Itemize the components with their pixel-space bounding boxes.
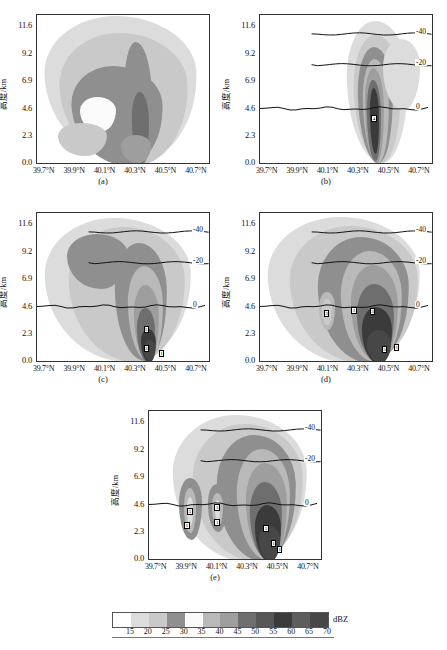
y-axis-tick	[148, 477, 149, 478]
y-axis-tick-right	[321, 422, 322, 423]
contour-value-marker: 3	[187, 508, 193, 515]
x-axis-tick	[217, 559, 218, 560]
colorbar-segment	[167, 613, 185, 627]
colorbar-unit-label: dBZ	[333, 614, 348, 624]
y-axis-tick-label: 9.2	[118, 444, 144, 454]
panel-e: 3131511-40-2000.02.34.66.99.211.639.7°N3…	[0, 0, 447, 650]
y-axis-tick-right	[321, 559, 322, 560]
colorbar-segment	[310, 613, 328, 627]
x-axis-tick-top	[309, 410, 310, 411]
contour-value-marker: 3	[214, 504, 220, 511]
colorbar-baseline	[112, 637, 334, 638]
plot-area-e: 3131511	[148, 410, 322, 560]
contour-value-marker: 1	[271, 540, 277, 547]
x-axis-tick-top	[157, 410, 158, 411]
contour-value-marker: 1	[277, 546, 283, 553]
colorbar-segment	[185, 613, 203, 627]
y-axis-tick	[148, 532, 149, 533]
colorbar-segment	[238, 613, 256, 627]
colorbar-segment	[256, 613, 274, 627]
y-axis-tick-right	[321, 505, 322, 506]
colorbar-segment	[131, 613, 149, 627]
x-axis-tick-label: 40.7°N	[289, 562, 327, 571]
isotherm-label: -40	[304, 424, 316, 432]
y-axis-tick	[148, 505, 149, 506]
y-axis-tick-label: 11.6	[118, 416, 144, 426]
colorbar-segment	[113, 613, 131, 627]
x-axis-tick	[309, 559, 310, 560]
x-axis-tick-top	[278, 410, 279, 411]
colorbar-segment	[292, 613, 310, 627]
colorbar-segment	[203, 613, 221, 627]
y-axis-tick-label: 2.3	[118, 526, 144, 536]
x-axis-tick-top	[217, 410, 218, 411]
x-axis-tick	[278, 559, 279, 560]
colorbar: dBZ 152025303540455055606570	[0, 605, 447, 637]
isotherm-label: -20	[304, 455, 316, 463]
x-axis-tick-top	[248, 410, 249, 411]
colorbar-segment	[149, 613, 167, 627]
colorbar-segment	[220, 613, 238, 627]
x-axis-tick	[248, 559, 249, 560]
y-axis-tick	[148, 422, 149, 423]
y-axis-tick-label: 4.6	[118, 499, 144, 509]
colorbar-strip	[112, 612, 329, 628]
y-axis-tick-right	[321, 450, 322, 451]
y-axis-tick-right	[321, 477, 322, 478]
x-axis-tick-top	[187, 410, 188, 411]
y-axis-title: 高度/km	[108, 475, 120, 506]
contour-value-marker: 1	[214, 519, 220, 526]
colorbar-tick-label: 70	[317, 627, 337, 636]
contour-value-marker: 5	[263, 525, 269, 532]
x-axis-tick	[187, 559, 188, 560]
panel-label-e: (e)	[195, 572, 235, 582]
reflectivity-contour-fill	[259, 526, 280, 560]
y-axis-tick-label: 6.9	[118, 471, 144, 481]
colorbar-segment	[274, 613, 292, 627]
y-axis-tick-right	[321, 532, 322, 533]
y-axis-tick	[148, 450, 149, 451]
y-axis-tick	[148, 559, 149, 560]
isotherm-label: 0	[304, 499, 310, 507]
x-axis-tick	[157, 559, 158, 560]
contour-value-marker: 1	[184, 522, 190, 529]
